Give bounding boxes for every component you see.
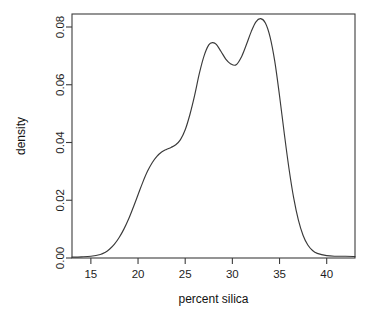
plot-canvas: 152025303540 0.000.020.040.060.08 percen… [0,0,368,326]
x-tick-label-35: 35 [273,268,286,280]
x-axis-tick-labels: 152025303540 [84,268,333,280]
y-tick-label-0.08: 0.08 [54,16,66,38]
y-axis-tick-labels: 0.000.020.040.060.08 [54,16,66,269]
plot-frame-box [72,14,355,258]
x-tick-label-15: 15 [84,268,97,280]
y-tick-label-0.06: 0.06 [54,74,66,96]
y-tick-label-0.04: 0.04 [54,131,66,154]
x-axis-tick-marks [91,258,327,264]
x-tick-label-20: 20 [132,268,145,280]
y-tick-label-0.02: 0.02 [54,189,66,211]
y-axis-title: density [14,117,28,155]
x-tick-label-40: 40 [320,268,333,280]
x-tick-label-25: 25 [179,268,192,280]
density-curve-line [72,19,355,258]
x-axis-title: percent silica [178,292,248,306]
y-tick-label-0.00: 0.00 [54,247,66,269]
density-plot-figure: 152025303540 0.000.020.040.060.08 percen… [0,0,368,326]
x-tick-label-30: 30 [226,268,239,280]
y-axis-tick-marks [66,27,72,258]
